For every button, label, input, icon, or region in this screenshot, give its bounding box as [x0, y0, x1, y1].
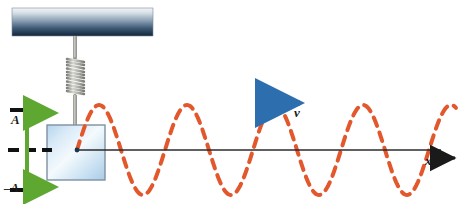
amplitude-positive-label: A: [11, 113, 20, 126]
x-axis-label: x: [425, 154, 432, 167]
physics-figure-mass-on-spring: A –A v x: [0, 0, 459, 204]
oscillating-block: [47, 125, 105, 180]
hanger-rod: [73, 36, 77, 59]
block-center-dot: [75, 148, 80, 153]
coil-spring: [67, 57, 84, 96]
velocity-label: v: [294, 106, 300, 119]
amplitude-negative-label: –A: [4, 181, 19, 194]
spring-to-block-rod: [73, 95, 77, 129]
ceiling-support-bar: [12, 8, 153, 36]
figure-canvas: [0, 0, 459, 204]
